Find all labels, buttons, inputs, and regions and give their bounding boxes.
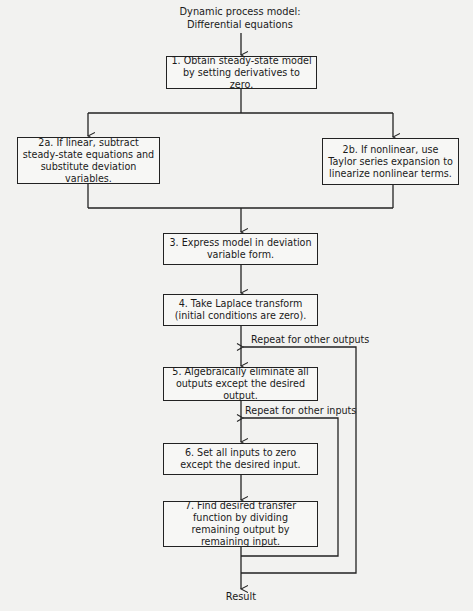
- title-line-2: Differential equations: [160, 19, 320, 32]
- result-label: Result: [216, 591, 266, 602]
- step-6-box: 6. Set all inputs to zero except the des…: [163, 443, 318, 475]
- step-3-text: 3. Express model in deviation variable f…: [168, 237, 313, 261]
- step-4-box: 4. Take Laplace transform (initial condi…: [163, 294, 318, 326]
- repeat-inputs-label: Repeat for other inputs: [245, 405, 356, 417]
- step-4-text: 4. Take Laplace transform (initial condi…: [168, 298, 313, 322]
- step-1-text: 1. Obtain steady-state model by setting …: [171, 55, 312, 91]
- repeat-outputs-label: Repeat for other outputs: [251, 334, 369, 346]
- step-2b-text: 2b. If nonlinear, use Taylor series expa…: [327, 144, 454, 180]
- step-2a-box: 2a. If linear, subtract steady-state equ…: [17, 137, 160, 184]
- step-7-text: 7. Find desired transfer function by div…: [168, 500, 313, 548]
- step-5-box: 5. Algebraically eliminate all outputs e…: [163, 367, 318, 401]
- step-2a-text: 2a. If linear, subtract steady-state equ…: [22, 137, 155, 185]
- start-node-title: Dynamic process model: Differential equa…: [160, 6, 320, 31]
- title-line-1: Dynamic process model:: [160, 6, 320, 19]
- step-7-box: 7. Find desired transfer function by div…: [163, 501, 318, 547]
- step-1-box: 1. Obtain steady-state model by setting …: [166, 56, 317, 89]
- step-5-text: 5. Algebraically eliminate all outputs e…: [168, 366, 313, 402]
- step-6-text: 6. Set all inputs to zero except the des…: [168, 447, 313, 471]
- step-2b-box: 2b. If nonlinear, use Taylor series expa…: [322, 138, 459, 185]
- step-3-box: 3. Express model in deviation variable f…: [163, 233, 318, 265]
